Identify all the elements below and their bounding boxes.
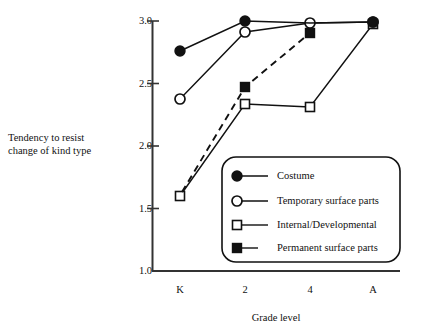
legend-label-internal-developmental: Internal/Developmental	[277, 219, 377, 230]
chart-figure: Tendency to resist change of kind type 3…	[0, 0, 422, 335]
legend-label-costume: Costume	[277, 170, 314, 181]
plot-canvas	[0, 0, 422, 335]
series-costume	[175, 16, 378, 56]
legend-label-permanent-surface-parts: Permanent surface parts	[277, 242, 378, 253]
series-temporary-surface-parts	[175, 17, 378, 104]
legend-label-temporary-surface-parts: Temporary surface parts	[277, 195, 379, 206]
